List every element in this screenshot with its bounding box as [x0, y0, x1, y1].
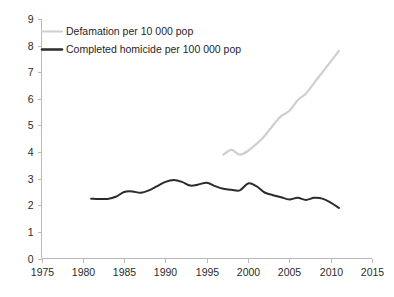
y-tick-label: 7: [28, 66, 34, 78]
line-chart: 0123456789 19751980198519901995200020052…: [0, 0, 394, 297]
x-tick-label: 2005: [278, 266, 302, 278]
x-tick-label: 2000: [237, 266, 261, 278]
y-tick-label: 9: [28, 13, 34, 25]
legend-item-homicide: Completed homicide per 100 000 pop: [42, 43, 241, 55]
x-tick-label: 2015: [361, 266, 385, 278]
y-tick-label: 3: [28, 173, 34, 185]
x-tick-label: 1985: [113, 266, 137, 278]
y-tick-label: 6: [28, 93, 34, 105]
y-tick-label: 0: [28, 253, 34, 265]
y-tick-label: 8: [28, 40, 34, 52]
legend-label: Defamation per 10 000 pop: [66, 25, 193, 37]
x-axis: 197519801985199019952000200520102015: [31, 259, 385, 278]
chart-canvas: 0123456789 19751980198519901995200020052…: [0, 0, 394, 297]
y-tick-label: 4: [28, 146, 34, 158]
legend-label: Completed homicide per 100 000 pop: [66, 43, 241, 55]
x-tick-label: 1980: [72, 266, 96, 278]
x-tick-label: 1975: [31, 266, 55, 278]
y-tick-label: 5: [28, 119, 34, 131]
x-tick-label: 1990: [154, 266, 178, 278]
x-tick-label: 1995: [196, 266, 220, 278]
x-tick-label-group: 197519801985199019952000200520102015: [31, 266, 385, 278]
x-tick-label: 2010: [320, 266, 344, 278]
y-tick-label: 2: [28, 199, 34, 211]
y-tick-label: 1: [28, 226, 34, 238]
